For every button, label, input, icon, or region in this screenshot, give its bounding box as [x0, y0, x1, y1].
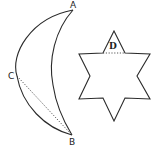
crescent-shape: A B C [8, 0, 77, 147]
geometry-figure: A B C D [0, 0, 162, 150]
label-a: A [70, 0, 77, 10]
chord-c-b [17, 76, 70, 133]
star-shape: D [79, 31, 150, 121]
label-b: B [69, 137, 75, 147]
label-d: D [109, 41, 117, 51]
label-c: C [8, 71, 14, 81]
crescent-inner-arc [51, 10, 73, 135]
crescent-outer-arc [16, 10, 73, 135]
